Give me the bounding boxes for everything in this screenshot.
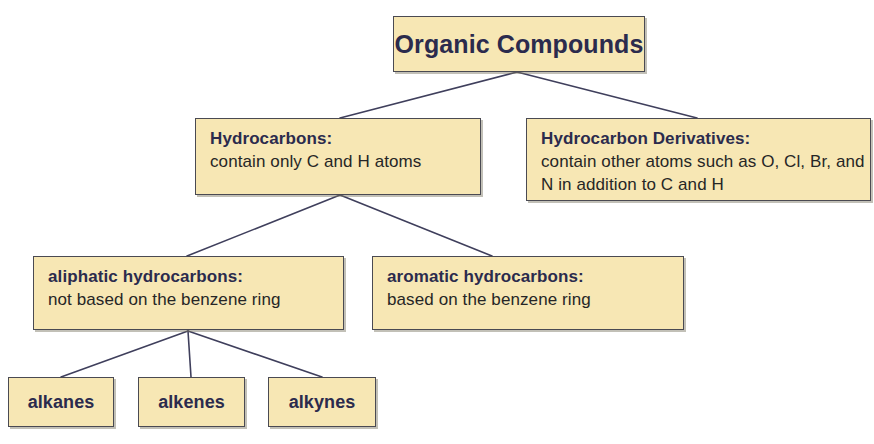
edge-hydrocarbons-to-aromatic — [340, 195, 492, 256]
diagram-canvas: Organic Compounds Hydrocarbons: contain … — [0, 0, 874, 444]
node-organic-compounds[interactable]: Organic Compounds — [393, 16, 645, 72]
node-aromatic-hydrocarbons-title: aromatic hydrocarbons: — [387, 266, 683, 288]
node-hydrocarbons-description: contain only C and H atoms — [210, 150, 480, 173]
node-alkenes-title: alkenes — [158, 392, 225, 412]
node-alkynes-title: alkynes — [289, 392, 356, 412]
node-aliphatic-hydrocarbons[interactable]: aliphatic hydrocarbons: not based on the… — [33, 256, 344, 330]
node-alkanes[interactable]: alkanes — [8, 377, 114, 427]
edge-hydrocarbons-to-aliphatic — [187, 195, 340, 256]
node-alkynes[interactable]: alkynes — [268, 377, 376, 427]
edge-root-to-derivatives — [517, 72, 697, 118]
node-hydrocarbons[interactable]: Hydrocarbons: contain only C and H atoms — [195, 118, 481, 195]
node-alkanes-title: alkanes — [28, 392, 95, 412]
node-aliphatic-hydrocarbons-title: aliphatic hydrocarbons: — [48, 266, 343, 288]
node-hydrocarbon-derivatives-title: Hydrocarbon Derivatives: — [541, 128, 870, 150]
node-hydrocarbon-derivatives[interactable]: Hydrocarbon Derivatives: contain other a… — [526, 118, 871, 201]
node-hydrocarbons-title: Hydrocarbons: — [210, 128, 480, 150]
node-organic-compounds-title: Organic Compounds — [395, 31, 644, 58]
node-aromatic-hydrocarbons-description: based on the benzene ring — [387, 288, 683, 311]
node-aliphatic-hydrocarbons-description: not based on the benzene ring — [48, 288, 343, 311]
node-alkenes[interactable]: alkenes — [138, 377, 245, 427]
edge-root-to-hydrocarbons — [340, 72, 517, 118]
node-hydrocarbon-derivatives-description: contain other atoms such as O, Cl, Br, a… — [541, 150, 870, 196]
node-aromatic-hydrocarbons[interactable]: aromatic hydrocarbons: based on the benz… — [372, 256, 684, 330]
edge-aliphatic-to-alkynes — [188, 331, 322, 377]
edge-aliphatic-to-alkanes — [61, 331, 188, 377]
edge-aliphatic-to-alkenes — [188, 331, 191, 377]
